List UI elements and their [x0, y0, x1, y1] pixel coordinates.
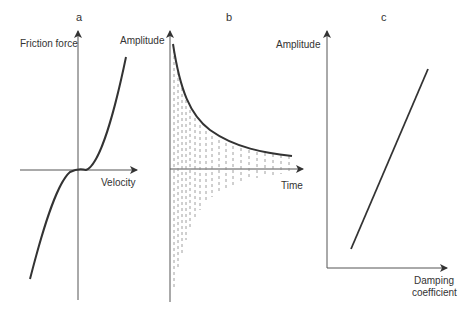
panel-b-x-label: Time	[281, 180, 303, 191]
panel-a-letter: a	[76, 11, 83, 23]
panel-b-envelope-curve	[173, 44, 292, 156]
panel-b-y-label: Amplitude	[120, 35, 165, 46]
panel-b-oscillation-fill	[174, 50, 289, 290]
panel-a: a Friction force Velocity	[20, 11, 137, 300]
panel-c-linear-line	[351, 69, 428, 249]
figure-canvas: a Friction force Velocity b Amplitude Ti…	[0, 0, 474, 311]
panel-c-x-label-line2: coefficient	[412, 287, 457, 298]
panel-c-x-label-line1: Damping	[414, 275, 454, 286]
panel-c: c Amplitude Damping coefficient	[276, 11, 457, 298]
panel-b-letter: b	[226, 11, 232, 23]
panel-a-x-label: Velocity	[101, 177, 135, 188]
panel-c-y-label: Amplitude	[276, 39, 321, 50]
panel-a-y-label: Friction force	[20, 38, 78, 49]
panel-b: b Amplitude Time	[120, 11, 303, 302]
panel-c-letter: c	[381, 11, 387, 23]
